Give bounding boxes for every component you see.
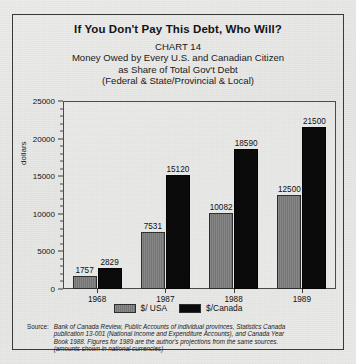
y-minor-tick [60, 266, 63, 267]
subtitle-line-3: as Share of Total Gov't Debt [13, 64, 343, 75]
y-tick-label: 15000 [33, 172, 55, 181]
y-tick-15000: 15000 [33, 172, 63, 181]
legend-swatch [114, 304, 136, 313]
y-tick-mark [58, 138, 63, 139]
x-tick-mark [165, 289, 166, 293]
legend-swatch [179, 304, 201, 313]
y-minor-tick [60, 191, 63, 192]
y-minor-tick [60, 108, 63, 109]
bar-1989-canada: 21500 [302, 127, 326, 289]
y-minor-tick [60, 123, 63, 124]
source-line-1: Bank of Canada Review, Public Accounts o… [54, 323, 285, 330]
y-tick-mark [58, 213, 63, 214]
y-tick-mark [58, 251, 63, 252]
y-minor-tick [60, 183, 63, 184]
y-minor-tick [60, 281, 63, 282]
y-tick-label: 25000 [33, 97, 55, 106]
bar-1988-usa: 10082 [209, 213, 233, 289]
x-tick-mark [302, 289, 303, 293]
y-minor-tick [60, 221, 63, 222]
source-line-3: Book 1988. Figures for 1989 are the auth… [54, 338, 285, 345]
bar-value-label: 10082 [210, 203, 233, 212]
source-caption: Source: [27, 323, 49, 353]
source-line-2: publication 13-001 (National Income and … [54, 330, 285, 337]
y-tick-mark [58, 101, 63, 102]
bar-value-label: 2829 [101, 258, 119, 267]
y-tick-25000: 25000 [33, 97, 63, 106]
plot-area: 0500010000150002000025000 19681987198819… [63, 101, 336, 289]
y-tick-mark [58, 289, 63, 290]
y-tick-label: 20000 [33, 134, 55, 143]
y-tick-mark [58, 176, 63, 177]
y-minor-tick [60, 168, 63, 169]
bar-1987-canada: 15120 [166, 175, 190, 289]
y-minor-tick [60, 153, 63, 154]
y-tick-label: 5000 [37, 247, 55, 256]
x-tick-mark [97, 289, 98, 293]
bar-1968-usa: 1757 [73, 276, 97, 289]
x-tick-mark [234, 289, 235, 293]
y-minor-tick [60, 243, 63, 244]
y-minor-tick [60, 116, 63, 117]
y-minor-tick [60, 161, 63, 162]
bar-value-label: 12500 [278, 185, 301, 194]
y-minor-tick [60, 146, 63, 147]
source-line-4: (amounts shown in national currencies) [54, 345, 285, 352]
legend-item-canada: $/Canada [179, 303, 242, 313]
bar-value-label: 7531 [144, 222, 162, 231]
chart-figure: If You Don't Pay This Debt, Who Will? CH… [12, 14, 344, 350]
subtitle-line-2: Money Owed by Every U.S. and Canadian Ci… [13, 52, 343, 63]
y-tick-label: 0 [51, 285, 55, 294]
legend-item-usa: $/ USA [114, 303, 168, 313]
bar-1989-usa: 12500 [277, 195, 301, 289]
legend-label: $/ USA [141, 303, 168, 313]
y-minor-tick [60, 236, 63, 237]
chart-legend: $/ USA$/Canada [13, 303, 343, 313]
bar-1968-canada: 2829 [98, 268, 122, 289]
y-minor-tick [60, 198, 63, 199]
y-tick-20000: 20000 [33, 134, 63, 143]
bar-value-label: 21500 [303, 117, 326, 126]
legend-label: $/Canada [206, 303, 242, 313]
y-tick-0: 0 [51, 285, 63, 294]
subtitle-line-1: CHART 14 [13, 41, 343, 52]
bar-value-label: 1757 [76, 266, 94, 275]
y-minor-tick [60, 131, 63, 132]
bar-value-label: 15120 [166, 165, 189, 174]
y-minor-tick [60, 228, 63, 229]
source-text: Bank of Canada Review, Public Accounts o… [54, 323, 285, 353]
subtitle-line-4: (Federal & State/Provincial & Local) [13, 75, 343, 86]
chart-subtitle: CHART 14 Money Owed by Every U.S. and Ca… [13, 41, 343, 87]
source-note: Source: Bank of Canada Review, Public Ac… [27, 323, 331, 353]
y-minor-tick [60, 273, 63, 274]
y-tick-5000: 5000 [37, 247, 63, 256]
bar-1987-usa: 7531 [141, 232, 165, 289]
bar-value-label: 18590 [235, 139, 258, 148]
y-minor-tick [60, 206, 63, 207]
y-axis-label: dollars [19, 151, 28, 165]
bar-1988-canada: 18590 [234, 149, 258, 289]
y-tick-label: 10000 [33, 209, 55, 218]
y-tick-10000: 10000 [33, 209, 63, 218]
chart-title: If You Don't Pay This Debt, Who Will? [13, 23, 343, 35]
y-minor-tick [60, 258, 63, 259]
